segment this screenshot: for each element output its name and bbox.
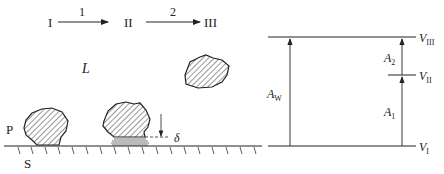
v2-label: VII <box>419 69 432 85</box>
free-particle <box>185 55 229 88</box>
adhered-particle <box>24 108 68 145</box>
adhesion-diagram: I 1 II 2 III L P δ S <box>0 0 444 174</box>
aw-label: AW <box>266 87 282 103</box>
stage-3-label: III <box>204 15 217 30</box>
stage-sequence: I 1 II 2 III <box>48 5 217 30</box>
transition-1-label: 1 <box>79 5 85 19</box>
transition-2-label: 2 <box>170 5 176 19</box>
surface-label: S <box>24 156 31 171</box>
a2-label: A2 <box>383 51 395 67</box>
stage-1-label: I <box>48 15 52 30</box>
particle-label: P <box>6 122 13 137</box>
gap-label: δ <box>174 131 180 145</box>
a1-label: A1 <box>383 105 395 121</box>
v3-label: VIII <box>419 31 435 47</box>
v1-label: VI <box>419 140 429 156</box>
stage-2-label: II <box>124 15 133 30</box>
lifted-particle <box>103 102 150 137</box>
liquid-label: L <box>81 61 90 76</box>
surface-hatching <box>18 147 256 154</box>
liquid-film <box>111 139 149 145</box>
energy-diagram: VIII VII VI AW A2 A1 <box>266 31 435 156</box>
